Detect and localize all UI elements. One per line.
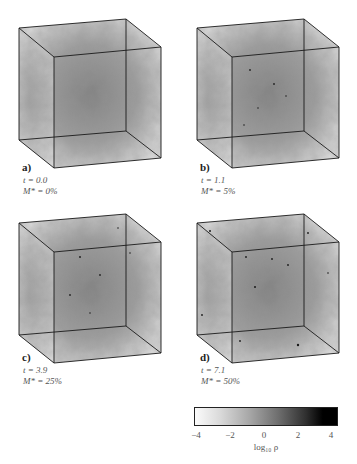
time-label: t = 7.1 [201,365,225,375]
colorbar-tick: 2 [296,430,301,440]
time-label: t = 3.9 [23,365,47,375]
time-label: t = 1.1 [201,175,225,185]
panel-a: a) t = 0.0 M* = 0% [0,0,178,200]
time-label: t = 0.0 [23,175,47,185]
stellar-mass-label: M* = 25% [23,376,62,386]
colorbar-tick: −4 [191,430,201,440]
colorbar [194,407,338,426]
panel-letter: d) [200,351,210,363]
panel-letter: c) [22,351,31,363]
colorbar-tick: 0 [262,430,267,440]
stellar-mass-label: M* = 50% [201,376,240,386]
colorbar-tick: −2 [225,430,235,440]
panel-letter: a) [22,161,31,173]
colorbar-tick: 4 [329,430,334,440]
panel-d: d) t = 7.1 M* = 50% [178,195,356,395]
panel-b: b) t = 1.1 M* = 5% [178,0,356,200]
panel-letter: b) [200,161,210,173]
panel-c: c) t = 3.9 M* = 25% [0,195,178,395]
colorbar-label: log₁₀ ρ [254,442,279,452]
